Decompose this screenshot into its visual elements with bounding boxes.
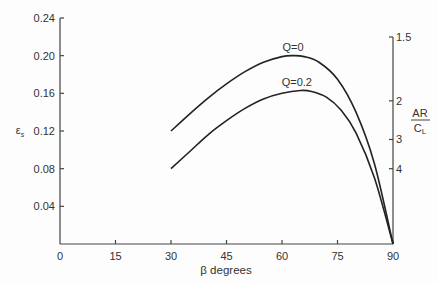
y-tick-label: 0.04	[34, 200, 55, 212]
series-label: Q=0.2	[282, 76, 312, 88]
chart-figure: 0153045607590β degrees0.040.080.120.160.…	[0, 0, 438, 282]
x-tick-label: 45	[220, 250, 232, 262]
y2-tick-label: 2	[396, 95, 402, 107]
y2-tick-label: 1.5	[396, 31, 411, 43]
y2-label-denominator: CL	[414, 122, 427, 136]
y-tick-label: 0.24	[34, 12, 55, 24]
x-tick-label: 75	[331, 250, 343, 262]
series-curve-q02	[171, 90, 393, 244]
y2-tick-label: 3	[396, 133, 402, 145]
x-tick-label: 30	[165, 250, 177, 262]
y-tick-label: 0.12	[34, 125, 55, 137]
line-chart: 0153045607590β degrees0.040.080.120.160.…	[0, 0, 438, 282]
x-tick-label: 90	[387, 250, 399, 262]
y-tick-label: 0.16	[34, 87, 55, 99]
y2-tick-label: 4	[396, 163, 402, 175]
y-tick-label: 0.08	[34, 163, 55, 175]
y-axis-label: εs	[16, 124, 25, 138]
x-axis-label: β degrees	[200, 264, 252, 276]
x-tick-label: 0	[57, 250, 63, 262]
series-label: Q=0	[283, 41, 304, 53]
x-tick-label: 60	[276, 250, 288, 262]
x-tick-label: 15	[109, 250, 121, 262]
y2-label-numerator: AR	[412, 107, 427, 119]
y-tick-label: 0.20	[34, 50, 55, 62]
